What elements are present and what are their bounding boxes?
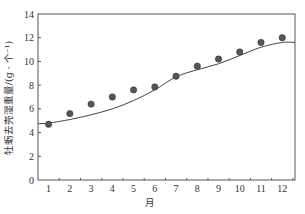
data-point (173, 73, 179, 79)
x-tick-label: 5 (131, 183, 136, 194)
data-point (67, 110, 73, 116)
x-tick-label: 7 (174, 183, 179, 194)
observed-points (45, 35, 285, 128)
y-tick-label: 14 (24, 9, 34, 20)
x-tick-label: 12 (277, 183, 287, 194)
data-point (215, 56, 221, 62)
data-point (45, 121, 51, 127)
x-tick-label: 9 (216, 183, 221, 194)
data-point (194, 63, 200, 69)
x-tick-label: 10 (235, 183, 245, 194)
y-tick-label: 12 (24, 32, 34, 43)
y-tick-label: 6 (29, 103, 34, 114)
model-curve (38, 42, 295, 124)
y-tick-label: 8 (29, 80, 34, 91)
y-axis-title: 牡蛎去壳湿重量/(g · 个⁻¹) (3, 41, 14, 156)
data-point (109, 94, 115, 100)
data-point (88, 101, 94, 107)
data-point (258, 39, 264, 45)
x-axis-title: 月 (145, 197, 155, 208)
data-point (152, 84, 158, 90)
x-tick-label: 3 (89, 183, 94, 194)
x-tick-label: 4 (110, 183, 115, 194)
chart: 02468101214 123456789101112 月 牡蛎去壳湿重量/(g… (0, 0, 305, 214)
y-tick-label: 0 (29, 175, 34, 186)
plot-frame (38, 14, 295, 180)
y-tick-label: 2 (29, 151, 34, 162)
x-tick-label: 6 (152, 183, 157, 194)
y-tick-label: 4 (29, 127, 34, 138)
x-tick-label: 11 (256, 183, 266, 194)
x-tick-label: 1 (46, 183, 51, 194)
data-point (279, 35, 285, 41)
x-tick-label: 2 (67, 183, 72, 194)
data-point (237, 49, 243, 55)
x-tick-label: 8 (195, 183, 200, 194)
data-point (130, 87, 136, 93)
y-tick-label: 10 (24, 56, 34, 67)
